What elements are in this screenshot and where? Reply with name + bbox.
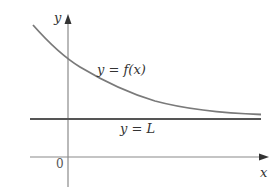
- curve-label: y = f(x): [96, 62, 146, 77]
- y-axis-arrow-icon: [65, 14, 72, 24]
- x-axis-label: x: [260, 165, 268, 180]
- asymptote-line: y = L: [30, 119, 261, 136]
- asymptote-label: y = L: [119, 121, 155, 136]
- x-axis-arrow-icon: [259, 154, 269, 161]
- x-axis: x: [30, 154, 269, 181]
- function-curve: y = f(x): [33, 25, 261, 115]
- y-axis-label: y: [53, 10, 62, 25]
- limit-diagram: y x 0 y = L y = f(x): [0, 0, 278, 189]
- origin-label: 0: [56, 157, 64, 171]
